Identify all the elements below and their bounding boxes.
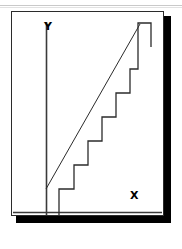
figure-card: Y X <box>11 11 164 216</box>
top-scan-rule-primary <box>0 5 182 6</box>
plot-area <box>12 12 164 216</box>
y-axis-label: Y <box>44 21 52 32</box>
x-axis-label: X <box>130 190 138 201</box>
staircase-step-curve <box>59 23 151 216</box>
diagonal-reference-line <box>46 24 140 189</box>
top-scan-rule-secondary <box>0 7 182 8</box>
